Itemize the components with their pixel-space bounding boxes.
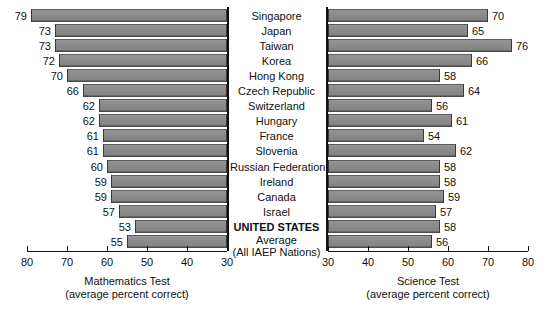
table-row-bar-math <box>55 39 227 52</box>
table-row-bar-science <box>328 99 432 112</box>
dual-bar-chart: 7970Singapore7365Japan7376Taiwan7266Kore… <box>0 0 549 315</box>
category-label: Ireland <box>230 176 323 188</box>
category-label-text: France <box>259 130 293 142</box>
category-label-subtext: (All IAEP Nations) <box>230 246 323 258</box>
left-axis-tick <box>227 246 228 251</box>
left-axis-tick <box>187 246 188 251</box>
left-axis-tick <box>27 246 28 251</box>
category-label-text: Switzerland <box>248 100 305 112</box>
table-row-bar-math <box>107 160 227 173</box>
table-row-bar-math <box>103 129 227 142</box>
bar-value-math: 53 <box>112 221 131 234</box>
right-axis-tick-label: 50 <box>393 256 423 268</box>
category-label-text: Slovenia <box>255 145 297 157</box>
table-row-bar-math <box>31 9 227 22</box>
bar-value-science: 61 <box>456 115 468 128</box>
table-row-bar-science <box>328 39 512 52</box>
table-row-bar-science <box>328 220 440 233</box>
bar-value-science: 62 <box>460 145 472 158</box>
bar-value-math: 62 <box>76 100 95 113</box>
table-row-bar-science <box>328 129 424 142</box>
category-label-text: Hungary <box>256 115 298 127</box>
bar-value-science: 56 <box>436 100 448 113</box>
table-row-bar-math <box>103 144 227 157</box>
category-label-text: Average <box>256 234 297 246</box>
bar-value-math: 62 <box>76 115 95 128</box>
left-axis-tick <box>147 246 148 251</box>
right-axis-tick <box>528 246 529 251</box>
right-axis-subtitle-text: (average percent correct) <box>308 288 548 301</box>
category-label-text: Russian Federation <box>230 161 325 173</box>
left-axis-tick <box>67 246 68 251</box>
right-axis-tick <box>368 246 369 251</box>
category-label-text: Canada <box>257 191 296 203</box>
category-label: Hong Kong <box>230 70 323 82</box>
table-row-bar-math <box>83 84 227 97</box>
bar-value-math: 59 <box>88 176 107 189</box>
right-axis-line <box>328 251 528 252</box>
bar-value-science: 65 <box>472 25 484 38</box>
table-row-bar-science <box>328 84 464 97</box>
bar-value-science: 58 <box>444 176 456 189</box>
bar-value-math: 61 <box>80 130 99 143</box>
bar-value-science: 66 <box>476 55 488 68</box>
category-label-text: UNITED STATES <box>234 221 320 233</box>
bar-value-science: 64 <box>468 85 480 98</box>
table-row-bar-science <box>328 160 440 173</box>
right-axis-tick-label: 30 <box>313 256 343 268</box>
left-axis-tick-label: 80 <box>12 256 42 268</box>
category-label: Hungary <box>230 115 323 127</box>
left-axis-tick <box>107 246 108 251</box>
table-row-bar-math <box>55 24 227 37</box>
left-axis-baseline <box>227 7 229 251</box>
bar-value-science: 58 <box>444 221 456 234</box>
bar-value-science: 59 <box>448 191 460 204</box>
category-label: Russian Federation <box>230 161 323 173</box>
table-row-bar-math <box>99 99 227 112</box>
category-label: Japan <box>230 25 323 37</box>
left-axis-tick-label: 50 <box>132 256 162 268</box>
table-row-bar-science <box>328 175 440 188</box>
bar-value-science: 56 <box>436 236 448 249</box>
category-label: Switzerland <box>230 100 323 112</box>
category-label: Canada <box>230 191 323 203</box>
bar-value-math: 72 <box>36 55 55 68</box>
left-axis-line <box>27 251 227 252</box>
category-label-text: Korea <box>262 55 291 67</box>
table-row-bar-science <box>328 114 452 127</box>
category-label-text: Singapore <box>251 10 301 22</box>
table-row-bar-science <box>328 205 436 218</box>
category-label-text: Hong Kong <box>249 70 304 82</box>
left-axis-title: Mathematics Test(average percent correct… <box>7 275 247 301</box>
bar-value-science: 57 <box>440 206 452 219</box>
table-row-bar-math <box>99 114 227 127</box>
category-label: UNITED STATES <box>230 221 323 233</box>
table-row-bar-science <box>328 24 468 37</box>
right-axis-tick <box>328 246 329 251</box>
category-label-text: Czech Republic <box>238 85 315 97</box>
table-row-bar-math <box>111 190 227 203</box>
right-axis-tick-label: 40 <box>353 256 383 268</box>
category-label: Slovenia <box>230 145 323 157</box>
table-row-bar-math <box>119 205 227 218</box>
right-axis-tick-label: 70 <box>473 256 503 268</box>
category-label: Taiwan <box>230 40 323 52</box>
table-row-bar-science <box>328 9 488 22</box>
table-row-bar-math <box>59 54 227 67</box>
bar-value-math: 60 <box>84 161 103 174</box>
bar-value-math: 73 <box>32 25 51 38</box>
left-axis-tick-label: 60 <box>92 256 122 268</box>
table-row-bar-science <box>328 235 432 248</box>
left-axis-tick-label: 40 <box>172 256 202 268</box>
right-axis-tick <box>488 246 489 251</box>
left-axis-tick-label: 70 <box>52 256 82 268</box>
table-row-bar-science <box>328 190 444 203</box>
bar-value-science: 70 <box>492 10 504 23</box>
right-axis-tick <box>408 246 409 251</box>
bar-value-math: 57 <box>96 206 115 219</box>
right-axis-tick-label: 60 <box>433 256 463 268</box>
left-axis-title-text: Mathematics Test <box>7 275 247 288</box>
category-label: Singapore <box>230 10 323 22</box>
table-row-bar-math <box>135 220 227 233</box>
bar-value-science: 58 <box>444 161 456 174</box>
